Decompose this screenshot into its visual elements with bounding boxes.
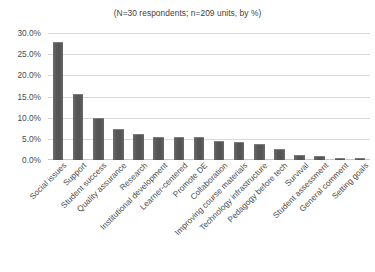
bar [133, 134, 143, 160]
bar [274, 149, 284, 160]
bar [153, 137, 163, 160]
y-axis-tick-label: 25.0% [17, 49, 41, 59]
bar [113, 129, 123, 160]
y-axis-tick-label: 10.0% [17, 113, 41, 123]
bars-layer [48, 33, 370, 160]
bar [53, 42, 63, 160]
bar [234, 142, 244, 160]
y-axis-tick-label: 5.0% [22, 134, 41, 144]
bar [194, 137, 204, 160]
bar [314, 156, 324, 160]
bar [93, 118, 103, 160]
bar [73, 94, 83, 160]
y-axis: 0.0%5.0%10.0%15.0%20.0%25.0%30.0% [0, 33, 44, 160]
chart-title: (N=30 respondents; n=209 units, by %) [0, 8, 375, 18]
bar-chart: (N=30 respondents; n=209 units, by %) 0.… [0, 0, 375, 272]
bar [294, 155, 304, 160]
bar [214, 141, 224, 160]
y-axis-tick-label: 15.0% [17, 92, 41, 102]
y-axis-tick-label: 30.0% [17, 28, 41, 38]
plot-area [48, 33, 370, 160]
y-axis-tick-label: 20.0% [17, 70, 41, 80]
bar [174, 137, 184, 160]
x-axis: Social issuesSupportStudent successQuali… [0, 161, 375, 272]
bar [254, 144, 264, 161]
